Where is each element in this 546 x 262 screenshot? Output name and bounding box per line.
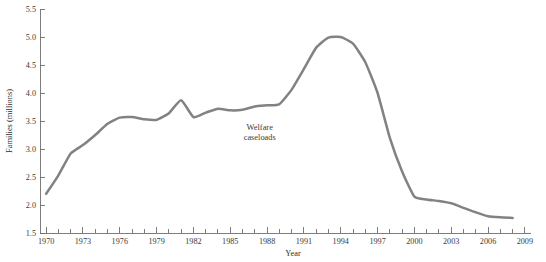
y-tick-label: 3.5	[26, 117, 36, 126]
x-tick-label: 1979	[148, 237, 164, 246]
x-tick-label: 1970	[38, 237, 54, 246]
y-tick-label: 2.5	[26, 173, 36, 182]
chart-annotations: Welfarecaseloads	[244, 123, 276, 142]
x-axis: 1970197319761979198219851988199119941997…	[38, 227, 533, 246]
line-chart-canvas: 1.52.02.53.03.54.04.55.05.5 197019731976…	[0, 0, 546, 262]
y-tick-label: 5.5	[26, 5, 36, 14]
x-tick-label: 2003	[443, 237, 459, 246]
y-axis-title: Families (millions)	[5, 89, 14, 153]
y-tick-label: 3.0	[26, 145, 36, 154]
y-tick-label: 4.0	[26, 89, 36, 98]
x-tick-label: 2006	[480, 237, 496, 246]
welfare-caseloads-label-line: Welfare	[247, 123, 274, 132]
x-tick-label: 1982	[185, 237, 201, 246]
welfare-caseloads-label-line: caseloads	[244, 133, 276, 142]
y-axis: 1.52.02.53.03.54.04.55.05.5	[26, 5, 45, 238]
y-tick-label: 2.0	[26, 201, 36, 210]
x-tick-label: 2000	[406, 237, 422, 246]
chart-figure: 1.52.02.53.03.54.04.55.05.5 197019731976…	[0, 0, 546, 262]
x-tick-label: 1991	[296, 237, 312, 246]
x-tick-label: 1973	[75, 237, 91, 246]
x-tick-label: 1976	[112, 237, 128, 246]
x-tick-label: 2009	[517, 237, 533, 246]
x-tick-label: 1988	[259, 237, 275, 246]
series-line-welfare-caseloads	[46, 37, 512, 218]
y-tick-label: 1.5	[26, 229, 36, 238]
x-tick-label: 1994	[333, 237, 349, 246]
x-tick-label: 1997	[369, 237, 385, 246]
x-axis-title: Year	[285, 249, 301, 258]
y-tick-label: 4.5	[26, 61, 36, 70]
x-tick-label: 1985	[222, 237, 238, 246]
y-tick-label: 5.0	[26, 33, 36, 42]
